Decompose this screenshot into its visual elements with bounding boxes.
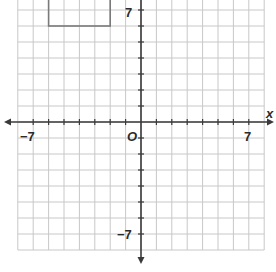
y-axis-down-arrow-icon (138, 257, 145, 264)
x-tick-label-7: 7 (244, 130, 251, 143)
y-tick-label-7: 7 (125, 6, 132, 19)
x-axis-label: x (266, 107, 273, 120)
y-tick-label-neg7: −7 (117, 228, 132, 241)
origin-label: O (127, 130, 137, 143)
x-axis-left-arrow-icon (4, 119, 11, 126)
coordinate-plane (0, 0, 276, 272)
x-tick-label-neg7: −7 (20, 130, 35, 143)
